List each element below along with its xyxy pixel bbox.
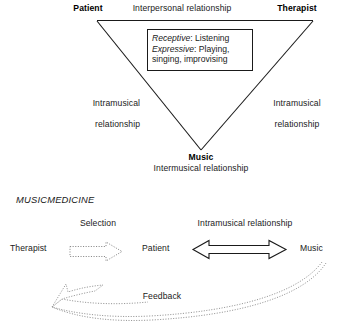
- feedback-arrow-label: Feedback: [132, 291, 192, 301]
- node-therapist-lower: Therapist: [10, 243, 64, 253]
- musicmedicine-heading: MUSICMEDICINE: [16, 195, 156, 205]
- selection-arrow: [70, 242, 122, 261]
- triangle-vertex-music: Music: [161, 152, 241, 162]
- node-music-lower: Music: [300, 243, 340, 253]
- node-patient-lower: Patient: [142, 243, 188, 253]
- intramusical-left-line1: Intramusical: [93, 98, 140, 108]
- selection-arrow-shape: [70, 242, 122, 261]
- triangle-edge-label-intermusical: Intermusical relationship: [121, 163, 281, 173]
- modalities-receptive-label: Receptive: [152, 33, 190, 43]
- figure-canvas: Patient Therapist Interpersonal relation…: [0, 0, 341, 332]
- modalities-expressive-label: Expressive: [152, 44, 194, 54]
- modalities-receptive-line: Receptive: Listening: [152, 33, 229, 43]
- intramusical-arrow-label: Intramusical relationship: [183, 218, 307, 228]
- triangle-edge-label-intramusical-left: Intramusical relationship: [48, 88, 140, 139]
- intramusical-right-line2: relationship: [274, 119, 319, 129]
- modalities-box: Receptive: Listening Expressive: Playing…: [147, 29, 253, 71]
- intramusical-right-line1: Intramusical: [273, 98, 320, 108]
- modalities-expressive-value-continued: singing, improvising: [152, 54, 227, 64]
- modalities-receptive-value: Listening: [195, 33, 229, 43]
- triangle-vertex-therapist: Therapist: [262, 3, 332, 13]
- intramusical-double-arrow-shape: [193, 241, 286, 259]
- modalities-expressive-value: Playing,: [199, 44, 230, 54]
- triangle-vertex-patient: Patient: [58, 3, 118, 13]
- triangle-edge-label-interpersonal: Interpersonal relationship: [112, 3, 252, 13]
- selection-arrow-label: Selection: [68, 218, 128, 228]
- modalities-expressive-line: Expressive: Playing,: [152, 44, 229, 54]
- intramusical-double-arrow: [193, 241, 286, 259]
- intramusical-left-line2: relationship: [95, 119, 140, 129]
- triangle-edge-label-intramusical-right: Intramusical relationship: [246, 88, 338, 139]
